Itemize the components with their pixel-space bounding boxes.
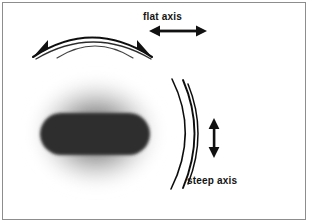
flat-axis-arrow-shaft (156, 30, 200, 33)
flat-arc-outer (33, 38, 152, 58)
steep-arc-outer (171, 79, 185, 189)
flat-arc-arrowhead-left (33, 40, 48, 57)
flat-axis-arrowhead-left (149, 26, 160, 37)
steep-axis-label: steep axis (187, 175, 237, 186)
steep-axis-arrowhead-top (209, 118, 220, 129)
flat-axis-double-arrow (149, 26, 207, 37)
steep-axis-double-arrow (209, 118, 220, 158)
steep-meridian-arc-group (171, 79, 198, 189)
flat-meridian-arc-group (33, 38, 152, 60)
flat-axis-label: flat axis (143, 11, 182, 22)
flat-axis-arrowhead-right (196, 26, 207, 37)
flat-arc-arrowhead-right (137, 40, 152, 57)
flat-arc-inner (57, 46, 133, 58)
dark-capsule-shape (40, 113, 150, 155)
flat-arc-middle (36, 42, 151, 59)
steep-axis-arrowhead-bottom (209, 147, 220, 158)
figure-root: flat axis steep axis (0, 0, 309, 223)
diagram-canvas (0, 0, 309, 223)
